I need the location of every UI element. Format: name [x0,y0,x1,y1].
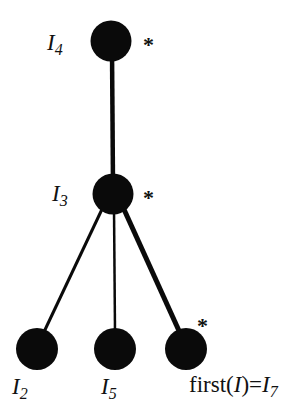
node-i3 [93,174,134,215]
label-i2: I2 [11,374,28,402]
star-i3: * [143,185,154,210]
label-first-i7: first(I)=I7 [189,372,279,400]
tree-diagram: I4 * I3 * I2 I5 * first(I)=I7 [0,0,298,418]
star-i7: * [197,313,208,338]
label-i5: I5 [100,374,117,402]
edge-i3-i7 [122,205,180,333]
node-i2 [16,328,58,370]
label-i4: I4 [46,30,63,58]
edge-i3-i5 [114,208,115,332]
label-i3: I3 [51,181,68,209]
star-i4: * [143,32,154,57]
node-i4 [91,21,132,62]
node-i5 [94,328,136,370]
edge-i3-i2 [43,205,104,334]
edge-i4-i3 [112,50,113,185]
